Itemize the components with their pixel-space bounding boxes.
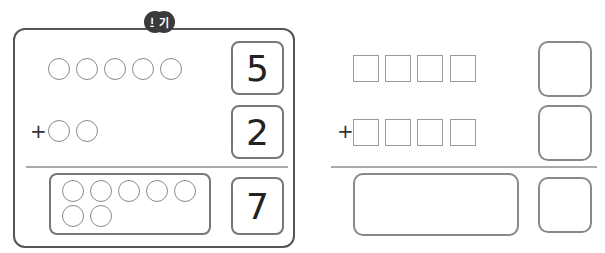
circle [160,58,182,80]
result-answer-box[interactable] [538,177,592,233]
circle [90,180,112,202]
circle [62,205,84,227]
circle [76,120,98,142]
circle [146,180,168,202]
row2-number: 2 [231,105,284,159]
square-box[interactable] [353,55,379,82]
square-box[interactable] [385,55,411,82]
circle [174,180,196,202]
circle [48,58,70,80]
square-box[interactable] [385,119,411,146]
circle [76,58,98,80]
square-box[interactable] [450,55,476,82]
plus-sign: + [337,121,354,141]
circle [48,120,70,142]
square-box[interactable] [417,119,443,146]
row2-answer-box[interactable] [538,105,592,161]
sum-divider [331,166,597,168]
example-badge-gi: 기 [153,11,175,33]
circle [62,180,84,202]
circle [132,58,154,80]
sum-divider [26,166,288,168]
plus-sign: + [30,121,47,141]
circle [118,180,140,202]
result-drawing-box[interactable] [353,173,519,236]
square-box[interactable] [417,55,443,82]
row1-number: 5 [231,41,284,95]
square-box[interactable] [450,119,476,146]
row1-answer-box[interactable] [538,41,592,97]
circle [90,205,112,227]
result-number: 7 [231,177,284,235]
circle [104,58,126,80]
square-box[interactable] [353,119,379,146]
